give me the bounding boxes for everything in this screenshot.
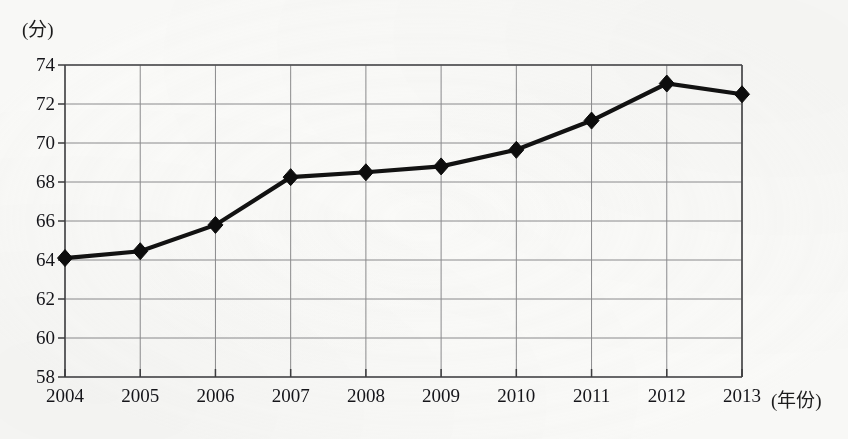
- y-axis-tick-label: 60: [11, 327, 55, 349]
- horizontal-gridlines: [65, 65, 742, 377]
- data-series-line: [65, 84, 742, 259]
- line-chart: (分) 586062646668707274 20042005200620072…: [0, 0, 848, 439]
- x-axis-tick-label: 2009: [406, 385, 476, 407]
- x-axis-tick-label: 2005: [105, 385, 175, 407]
- x-axis-tick-label: 2012: [632, 385, 702, 407]
- y-axis-tick-label: 70: [11, 132, 55, 154]
- y-axis-tick-label: 74: [11, 54, 55, 76]
- y-axis-tick-label: 62: [11, 288, 55, 310]
- x-axis-tick-label: 2006: [180, 385, 250, 407]
- x-axis-tick-label: 2013: [707, 385, 777, 407]
- x-axis-tick-label: 2010: [481, 385, 551, 407]
- y-axis-tick-label: 64: [11, 249, 55, 271]
- y-axis-tick-label: 72: [11, 93, 55, 115]
- x-axis-unit-label: (年份): [771, 385, 822, 412]
- x-axis-tick-label: 2004: [30, 385, 100, 407]
- y-axis-tick-label: 66: [11, 210, 55, 232]
- chart-plot-area: [0, 0, 848, 439]
- x-axis-tick-label: 2007: [256, 385, 326, 407]
- x-axis-tick-label: 2008: [331, 385, 401, 407]
- x-axis-tick-label: 2011: [557, 385, 627, 407]
- y-axis-tick-label: 68: [11, 171, 55, 193]
